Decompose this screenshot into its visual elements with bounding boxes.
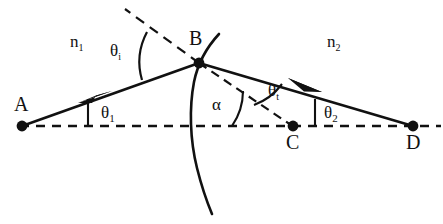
angle-label-theta-i-base: θ [110, 41, 118, 60]
angle-label-theta-t-sub: t [276, 91, 279, 102]
medium-label-n2-sub: 2 [336, 42, 341, 53]
medium-label-n2-base: n [327, 32, 336, 51]
angle-label-alpha: α [212, 96, 221, 113]
refracted-ray [199, 63, 413, 126]
point-label-c: C [286, 132, 299, 152]
alpha-arc [232, 91, 243, 126]
ray-diagram-svg [0, 0, 443, 224]
point-label-d: D [406, 132, 420, 152]
angle-label-theta-1-sub: 1 [109, 112, 115, 124]
angle-label-theta-2-sub: 2 [332, 112, 338, 124]
angle-label-theta-i: θi [110, 42, 121, 62]
medium-label-n1-base: n [70, 32, 79, 51]
angle-label-theta-2-base: θ [324, 103, 332, 122]
theta-i-arc [139, 32, 147, 80]
point-marker-b [194, 58, 205, 69]
medium-label-n1: n1 [70, 33, 84, 53]
angle-label-theta-t-base: θ [268, 81, 276, 100]
medium-label-n1-sub: 1 [79, 42, 84, 53]
angle-label-theta-1-base: θ [101, 103, 109, 122]
point-marker-c [288, 121, 299, 132]
angle-label-theta-t: θt [268, 82, 279, 102]
point-marker-a [17, 121, 28, 132]
figure-canvas: A B C D n1 n2 θi θt θ1 θ2 α [0, 0, 443, 224]
point-label-b: B [189, 28, 202, 48]
angle-label-theta-1: θ1 [101, 104, 115, 124]
normal-extension-line [125, 9, 199, 63]
angle-label-theta-2: θ2 [324, 104, 338, 124]
medium-label-n2: n2 [327, 33, 341, 53]
point-label-a: A [14, 94, 28, 114]
point-marker-d [408, 121, 419, 132]
angle-label-theta-i-sub: i [118, 51, 121, 62]
